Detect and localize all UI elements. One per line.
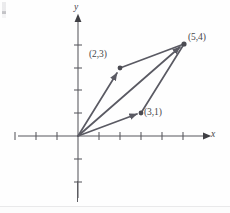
page-gutter-mark: [77, 181, 78, 202]
vector-diagram-figure: (2,3) (3,1) (5,4) x y: [0, 0, 230, 213]
point-3-1-label: (3,1): [144, 107, 162, 117]
point-5-4-dot: [181, 41, 186, 46]
x-axis: [15, 132, 203, 140]
vector-origin-to-2-3: [78, 73, 117, 136]
x-axis-label: x: [211, 129, 215, 139]
point-5-4-label: (5,4): [188, 32, 206, 42]
y-axis: [74, 22, 82, 198]
edge-3-1-to-5-4: [141, 44, 184, 113]
data-points: [118, 41, 187, 115]
vector-origin-to-5-4: [78, 47, 180, 136]
point-2-3-dot: [118, 66, 123, 71]
edge-2-3-to-5-4: [120, 44, 184, 68]
page-bottom-band: [0, 207, 230, 213]
vector-origin-to-3-1: [78, 114, 137, 136]
point-3-1-dot: [139, 111, 144, 116]
y-axis-label: y: [74, 2, 78, 12]
point-2-3-label: (2,3): [89, 49, 107, 59]
parallelogram-edges: [120, 44, 184, 113]
origin-vectors: [78, 47, 180, 136]
